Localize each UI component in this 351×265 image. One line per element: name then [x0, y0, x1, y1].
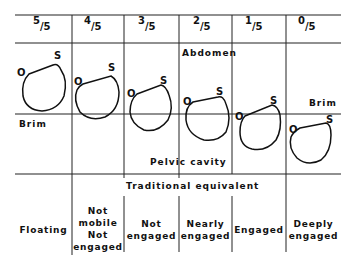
station-1-5: 1/5	[245, 18, 263, 31]
equivalent-deeply-engaged: Deeply engaged	[286, 218, 341, 242]
numerator: 2	[193, 15, 200, 26]
sinciput-marker: S	[54, 50, 61, 61]
sinciput-marker: S	[326, 114, 333, 125]
equivalent-line: Not	[72, 205, 124, 217]
numerator: 3	[138, 15, 145, 26]
fetal-head-2-5	[186, 97, 229, 141]
sinciput-marker: S	[108, 62, 115, 73]
equivalent-engaged: Engaged	[232, 224, 286, 236]
sinciput-marker: S	[160, 75, 167, 86]
station-5-5: 5/5	[33, 18, 51, 31]
equivalent-line: engaged	[72, 241, 124, 253]
equivalent-line: mobile	[72, 217, 124, 229]
station-4-5: 4/5	[84, 18, 102, 31]
equivalent-not-engaged: Not engaged	[124, 218, 179, 242]
sinciput-marker: S	[216, 86, 223, 97]
equivalent-not-mobile-not-engaged: Not mobile Not engaged	[72, 205, 124, 253]
denominator: /5	[40, 21, 51, 32]
pelvic-cavity-label: Pelvic cavity	[150, 157, 227, 167]
denominator: /5	[200, 21, 211, 32]
numerator: 0	[298, 15, 305, 26]
numerator: 4	[84, 15, 91, 26]
fetal-head-1-5	[240, 105, 281, 150]
equivalent-line: engaged	[179, 230, 232, 242]
equivalent-floating: Floating	[15, 224, 72, 236]
fetal-head-3-5	[130, 85, 171, 131]
equivalent-line: engaged	[124, 230, 179, 242]
station-2-5: 2/5	[193, 18, 211, 31]
abdomen-label: Abdomen	[182, 48, 237, 58]
sinciput-marker: S	[270, 95, 277, 106]
brim-label-left: Brim	[19, 119, 47, 129]
occiput-marker: O	[289, 124, 298, 135]
equivalent-line: Not	[124, 218, 179, 230]
fetal-head-5-5	[23, 65, 66, 111]
traditional-equivalent-label: Traditional equivalent	[126, 181, 259, 191]
equivalent-line: Deeply	[286, 218, 341, 230]
occiput-marker: O	[235, 111, 244, 122]
station-3-5: 3/5	[138, 18, 156, 31]
equivalent-line: Floating	[15, 224, 72, 236]
station-0-5: 0/5	[298, 18, 316, 31]
occiput-marker: O	[127, 88, 136, 99]
denominator: /5	[145, 21, 156, 32]
equivalent-line: engaged	[286, 230, 341, 242]
occiput-marker: O	[74, 76, 83, 87]
equivalent-line: Not	[72, 229, 124, 241]
denominator: /5	[305, 21, 316, 32]
occiput-marker: O	[183, 96, 192, 107]
denominator: /5	[91, 21, 102, 32]
equivalent-nearly-engaged: Nearly engaged	[179, 218, 232, 242]
equivalent-line: Nearly	[179, 218, 232, 230]
brim-label-right: Brim	[309, 98, 337, 108]
numerator: 1	[245, 15, 252, 26]
occiput-marker: O	[17, 67, 26, 78]
denominator: /5	[252, 21, 263, 32]
numerator: 5	[33, 15, 40, 26]
equivalent-line: Engaged	[232, 224, 286, 236]
